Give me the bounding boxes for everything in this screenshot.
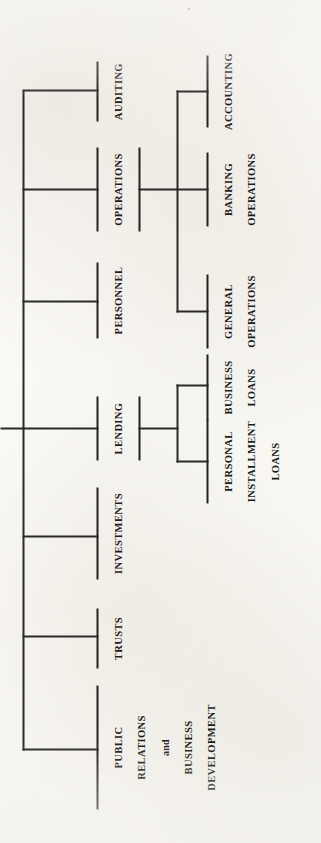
connector-drop-investments [22,535,98,537]
public-relations-line-2: RELATIONS [135,697,147,797]
node-bar-lending [96,396,98,460]
connector-drop-general-operations [176,310,208,312]
public-relations-line-5: DEVELOPMENT [205,697,217,797]
public-relations-line-1: PUBLIC [112,697,124,797]
accounting-line-1: ACCOUNTING [222,41,234,141]
auditing-line-1: AUDITING [112,41,124,141]
connector-drop-personal-loans [176,460,208,462]
connector-drop-operations [22,188,98,190]
connector-rail-operations [176,90,178,312]
chart-canvas: AUDITING OPERATIONS PERSONNEL LENDING IN… [0,0,321,843]
connector-drop-trusts [22,635,98,637]
personal-loans-line-1: PERSONAL [222,411,234,511]
connector-drop-lending [22,427,98,429]
node-label-operations: OPERATIONS [100,139,135,239]
node-label-auditing: AUDITING [100,41,135,141]
banking-operations-line-2: OPERATIONS [245,139,257,239]
node-label-banking-operations: BANKING OPERATIONS [210,139,269,239]
node-label-investments: INVESTMENTS [100,483,135,583]
connector-drop-personnel [22,300,98,302]
connector-drop-accounting [176,90,208,92]
node-label-public-relations: PUBLIC RELATIONS and BUSINESS DEVELOPMEN… [100,697,229,797]
chart-rotation-wrapper: AUDITING OPERATIONS PERSONNEL LENDING IN… [0,0,321,843]
personal-loans-line-2: INSTALLMENT [245,411,257,511]
node-bar-trusts [96,608,98,668]
node-bar-banking-operations [206,152,208,226]
connector-stem-operations [138,188,178,190]
connector-stem-lending [138,427,178,429]
organization-chart-page: AUDITING OPERATIONS PERSONNEL LENDING IN… [0,0,321,843]
connector-drop-auditing [22,89,98,91]
lending-line-1: LENDING [112,378,124,478]
ink-speck-artifact [188,8,190,10]
investments-line-1: INVESTMENTS [112,483,124,583]
connector-rail-lending [176,384,178,462]
node-bar-business-loans [206,354,208,420]
connector-drop-public-relations [22,748,98,750]
node-bar-operations [96,147,98,231]
public-relations-line-4: BUSINESS [182,697,194,797]
node-label-lending: LENDING [100,378,135,478]
node-bar-personnel [96,262,98,338]
node-label-personal-loans: PERSONAL INSTALLMENT LOANS [210,411,292,511]
personal-loans-line-3: LOANS [269,411,281,511]
node-bar-public-relations [96,685,98,809]
node-label-trusts: TRUSTS [100,588,135,688]
node-bar-investments [96,487,98,579]
banking-operations-line-1: BANKING [222,139,234,239]
node-bar-general-operations [206,274,208,348]
node-label-accounting: ACCOUNTING [210,41,245,141]
node-bar-auditing [96,61,98,121]
trunk-parent-stub [0,427,24,429]
personnel-line-1: PERSONNEL [112,250,124,350]
operations-line-1: OPERATIONS [112,139,124,239]
connector-drop-banking-operations [176,188,208,190]
node-bar-accounting [206,55,208,127]
trusts-line-1: TRUSTS [112,588,124,688]
node-bar-personal-loans [206,419,208,503]
public-relations-line-3: and [159,697,170,797]
connector-drop-business-loans [176,384,208,386]
node-label-personnel: PERSONNEL [100,250,135,350]
